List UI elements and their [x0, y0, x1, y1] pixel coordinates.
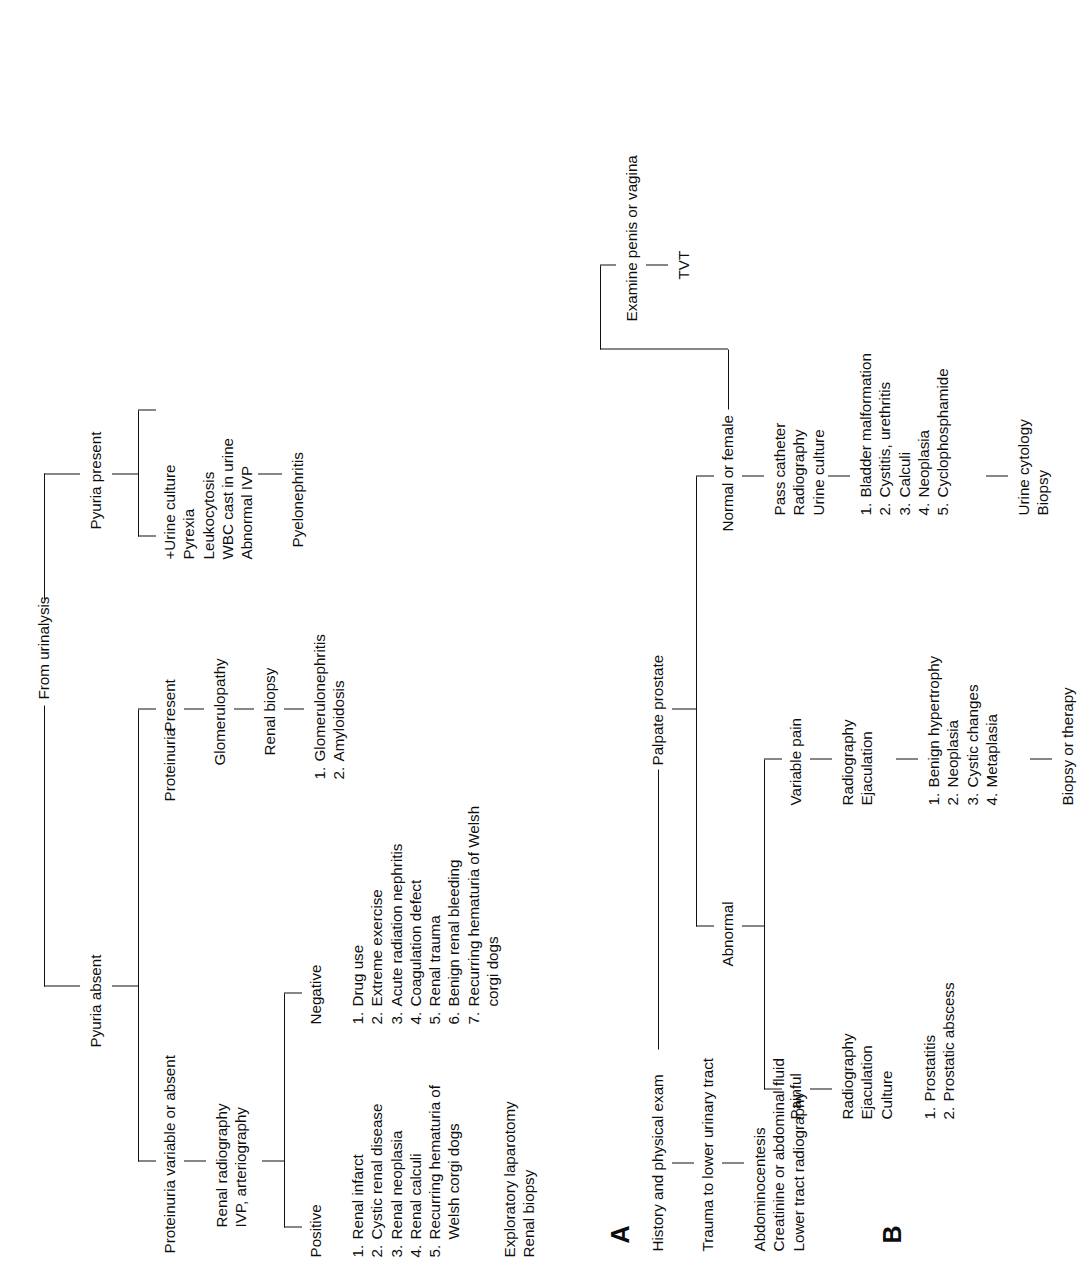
list-item: 4.Coagulation defect [406, 805, 425, 1024]
list-item: 1.Glomerulonephritis [310, 634, 329, 779]
test-item: Culture [877, 1033, 896, 1119]
test-item: IVP, arteriography [231, 1103, 250, 1227]
followup-item: Exploratory laparotomy [500, 1101, 519, 1257]
list-item: 1.Drug use [348, 805, 367, 1024]
connector-painful-leg [764, 1088, 782, 1089]
connector-prot-variable-leg [138, 1160, 156, 1161]
connector-painful-drop [810, 1088, 832, 1089]
node-negative: Negative [306, 964, 325, 1024]
list-item: 3.Calculi [895, 353, 914, 515]
list-item: 2.Neoplasia [943, 655, 962, 805]
connector-normal-leg [696, 475, 714, 476]
connector-abnormal-drop [742, 925, 764, 926]
connector-drop-pyuria-absent [44, 985, 80, 986]
connector-palpate-bus [696, 476, 697, 926]
connector-negative-leg [284, 992, 302, 993]
node-variable-pain: Variable pain [786, 717, 805, 805]
connector-root-bus-left [44, 750, 45, 986]
node-biopsy-or-therapy: Biopsy or therapy [1058, 687, 1077, 805]
connector-biopsy-therapy [1030, 758, 1052, 759]
test-item: Urine culture [809, 422, 828, 515]
list-normal-diagnoses: 1.Bladder malformation 2.Cystitis, ureth… [856, 353, 952, 515]
list-item: 2.Extreme exercise [367, 805, 386, 1024]
node-abnormal: Abnormal [718, 901, 737, 966]
connector-root-left [44, 705, 45, 753]
connector-normal-drop [742, 475, 764, 476]
list-item: 4.Metaplasia [982, 655, 1001, 805]
connector-prot-present-leg [138, 708, 156, 709]
list-positive-findings: 1.Renal infarct 2.Cystic renal disease 3… [348, 1085, 464, 1257]
node-pyuria-present: Pyuria present [86, 431, 105, 529]
panel-a-letter: A [606, 1225, 635, 1243]
test-item: Ejaculation [857, 1033, 876, 1119]
list-negative-findings: 1.Drug use 2.Extreme exercise 3.Acute ra… [348, 805, 502, 1024]
connector-abnormal-leg [696, 925, 714, 926]
connector-examine-bus [600, 265, 601, 349]
connector-drop-pyuria-present [44, 473, 80, 474]
list-positive-followup: Exploratory laparotomy Renal biopsy [500, 1101, 539, 1257]
connector-renal-biopsy [234, 708, 254, 709]
list-item: 2.Amyloidosis [329, 634, 348, 779]
list-item: 3.Acute radiation nephritis [387, 805, 406, 1024]
connector-normal-followup [986, 475, 1008, 476]
list-item: 4.Renal calculi [406, 1085, 425, 1257]
node-positive: Positive [306, 1204, 325, 1257]
connector-pyuria-present-left-leg [138, 535, 156, 536]
connector-examine-riser [600, 348, 728, 349]
connector-trauma-drop [722, 1162, 744, 1163]
list-item: 2.Cystitis, urethritis [875, 353, 894, 515]
connector-variable-leg [764, 758, 782, 759]
list-renal-radiography-tests: Renal radiography IVP, arteriography [212, 1103, 251, 1227]
connector-pyuria-present-drop [112, 473, 138, 474]
followup-item: Renal biopsy [519, 1101, 538, 1257]
test-item: Abdominocentesis [750, 1058, 769, 1251]
connector-renal-radiography [184, 1160, 206, 1161]
connector-normal-right [728, 349, 729, 409]
connector-glomerulopathy [184, 708, 204, 709]
panel-b-letter: B [878, 1225, 907, 1243]
list-item: 5.Cyclophosphamide [933, 353, 952, 515]
node-normal-or-female: Normal or female [718, 415, 737, 531]
finding-item: Leukocytosis [199, 437, 218, 559]
test-item: Pass catheter [770, 422, 789, 515]
list-item: 6.Benign renal bleeding [444, 805, 463, 1024]
followup-item: Urine cytology [1014, 419, 1033, 515]
node-painful: Painful [786, 1073, 805, 1119]
finding-item: +Urine culture [160, 437, 179, 559]
node-pyuria-absent: Pyuria absent [86, 954, 105, 1047]
node-renal-biopsy-a: Renal biopsy [260, 667, 279, 755]
connector-pyelonephritis [258, 473, 282, 474]
list-glomerulopathy: 1.Glomerulonephritis 2.Amyloidosis [310, 634, 349, 779]
node-history-physical-exam: History and physical exam [648, 1074, 667, 1251]
list-item: 2.Prostatic abscess [939, 982, 958, 1119]
list-item-continuation: corgi dogs [483, 805, 502, 1024]
node-pyelonephritis: Pyelonephritis [288, 452, 307, 547]
node-proteinuria-present: Present [160, 679, 179, 731]
list-variable-diagnoses: 1.Benign hypertrophy 2.Neoplasia 3.Cysti… [924, 655, 1001, 805]
list-item-continuation: Welsh corgi dogs [444, 1085, 463, 1257]
test-item: Radiography [789, 422, 808, 515]
followup-item: Biopsy [1033, 419, 1052, 515]
list-item: 4.Neoplasia [914, 353, 933, 515]
node-trauma-lower-urinary: Trauma to lower urinary tract [698, 1057, 717, 1251]
connector-tvt [646, 264, 668, 265]
list-normal-tests: Pass catheter Radiography Urine culture [770, 422, 828, 515]
list-variable-tests: Radiography Ejaculation [838, 719, 877, 805]
list-item: 5.Recurring hematuria of [425, 1085, 444, 1257]
finding-item: WBC cast in urine [218, 437, 237, 559]
node-from-urinalysis: From urinalysis [34, 596, 53, 699]
node-palpate-prostate: Palpate prostate [648, 654, 667, 765]
connector-pyuria-present-bus [138, 410, 139, 536]
list-painful-tests: Radiography Ejaculation Culture [838, 1033, 896, 1119]
connector-palpate-drop [672, 708, 696, 709]
connector-history-to-palpate [658, 769, 659, 1049]
list-item: 1.Renal infarct [348, 1085, 367, 1257]
connector-variable-list [896, 758, 918, 759]
connector-root-right [44, 551, 45, 599]
node-glomerulopathy: Glomerulopathy [210, 658, 229, 765]
test-item: Radiography [838, 1033, 857, 1119]
list-item: 1.Prostatitis [920, 982, 939, 1119]
connector-examine-leg [600, 264, 616, 265]
connector-pyuria-present-right-leg [138, 409, 156, 410]
